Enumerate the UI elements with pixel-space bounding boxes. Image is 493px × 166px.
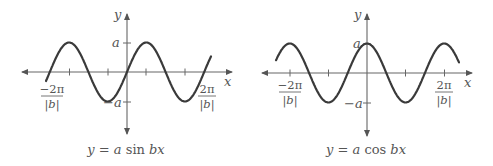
svg-text:|b|: |b| (199, 97, 214, 112)
amplitude-pos-label: a (112, 35, 120, 50)
cosine-caption: y = a cos bx (325, 142, 407, 157)
sine-graph: y x a −a −2π |b| 2π |b| y = a sin bx (22, 7, 232, 157)
svg-text:2π: 2π (200, 82, 215, 96)
trig-graphs-figure: y x a −a −2π |b| 2π |b| y = a sin bx (0, 0, 493, 166)
amplitude-neg-label: −a (103, 95, 122, 110)
pos-period-label: 2π |b| (198, 82, 216, 112)
neg-period-label: −2π |b| (40, 82, 65, 112)
sine-caption: y = a sin bx (86, 142, 165, 157)
svg-text:|b|: |b| (282, 93, 297, 108)
svg-text:−2π: −2π (40, 82, 65, 96)
svg-text:−2π: −2π (278, 78, 303, 92)
pos-period-label: 2π |b| (435, 78, 453, 108)
svg-text:2π: 2π (437, 78, 452, 92)
svg-text:|b|: |b| (436, 93, 451, 108)
amplitude-pos-label: a (353, 36, 361, 51)
y-axis-label: y (113, 7, 122, 22)
amplitude-neg-label: −a (344, 96, 363, 111)
x-axis-label: x (224, 74, 232, 89)
cosine-graph: y x a −a −2π |b| 2π |b| y = a cos bx (262, 7, 472, 157)
x-axis-label: x (464, 75, 472, 90)
y-axis-label: y (353, 7, 362, 22)
svg-text:|b|: |b| (44, 97, 59, 112)
neg-period-label: −2π |b| (278, 78, 303, 108)
